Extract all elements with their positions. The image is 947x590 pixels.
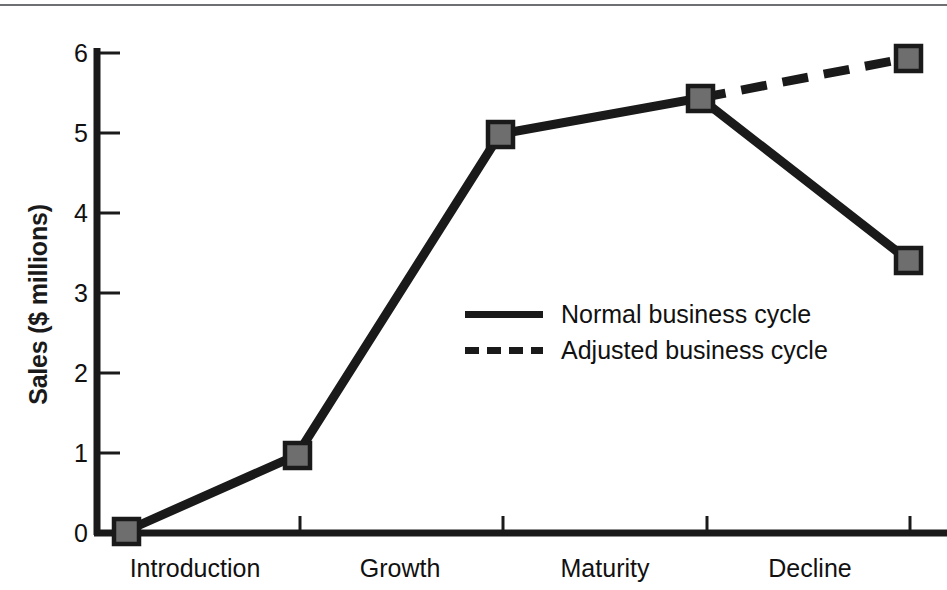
legend-item-normal-business-cycle: Normal business cycle xyxy=(465,296,865,332)
axis-lines xyxy=(94,48,947,535)
product-life-cycle-chart: Sales ($ millions) 6 5 4 3 2 1 0 Introdu… xyxy=(0,0,947,590)
legend-label-normal-business-cycle: Normal business cycle xyxy=(561,300,811,328)
series-line-adjusted-business-cycle xyxy=(700,58,908,98)
data-point-marker xyxy=(688,86,713,111)
data-point-marker xyxy=(896,248,921,273)
chart-legend: Normal business cycle Adjusted business … xyxy=(465,296,865,368)
data-point-marker xyxy=(896,46,921,71)
y-tick-marks xyxy=(99,53,120,453)
legend-label-adjusted-business-cycle: Adjusted business cycle xyxy=(561,336,828,364)
legend-item-adjusted-business-cycle: Adjusted business cycle xyxy=(465,332,865,368)
plot-area xyxy=(0,0,947,590)
data-point-marker xyxy=(114,519,139,544)
legend-dashed-line-icon xyxy=(465,347,543,354)
legend-solid-line-icon xyxy=(465,311,543,318)
series-markers xyxy=(114,46,921,544)
data-point-marker xyxy=(488,122,513,147)
data-point-marker xyxy=(285,443,310,468)
